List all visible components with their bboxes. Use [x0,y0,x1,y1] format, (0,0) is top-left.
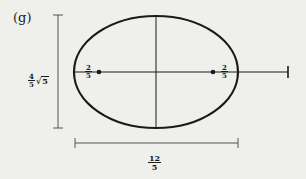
focus-right-label: 2 5 [221,55,228,79]
width-label: 12 5 [148,146,161,171]
focus-right [211,70,216,75]
focus-left [97,70,102,75]
height-label: 4 5 √5 [28,64,49,88]
part-label: (g) [13,10,31,25]
focus-left-label: 2 5 [85,55,92,79]
height-coefficient: 4 5 [28,73,35,88]
